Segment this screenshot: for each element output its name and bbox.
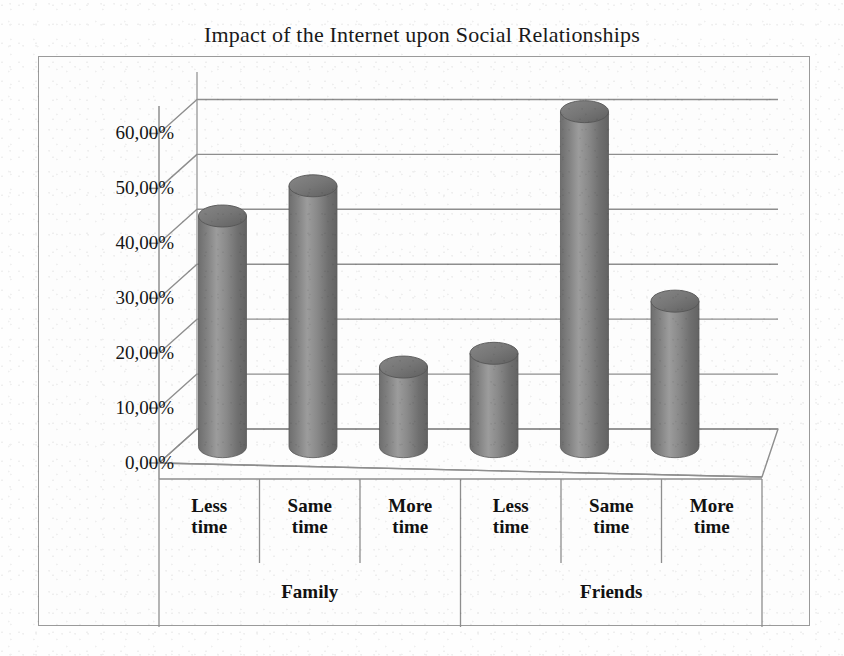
y-axis-tick-label: 30,00% xyxy=(54,287,174,309)
y-axis-tick-label: 20,00% xyxy=(54,342,174,364)
y-axis-tick-label: 0,00% xyxy=(54,452,174,474)
y-axis-tick-label: 60,00% xyxy=(54,122,174,144)
y-axis-tick-label: 40,00% xyxy=(54,232,174,254)
chart-page: Impact of the Internet upon Social Relat… xyxy=(0,0,844,656)
chart-title: Impact of the Internet upon Social Relat… xyxy=(0,22,844,48)
y-axis-tick-label: 10,00% xyxy=(54,397,174,419)
y-axis-tick-labels: 60,00%50,00%40,00%30,00%20,00%10,00%0,00… xyxy=(38,56,810,626)
plot-area: 60,00%50,00%40,00%30,00%20,00%10,00%0,00… xyxy=(38,56,810,626)
y-axis-tick-label: 50,00% xyxy=(54,177,174,199)
